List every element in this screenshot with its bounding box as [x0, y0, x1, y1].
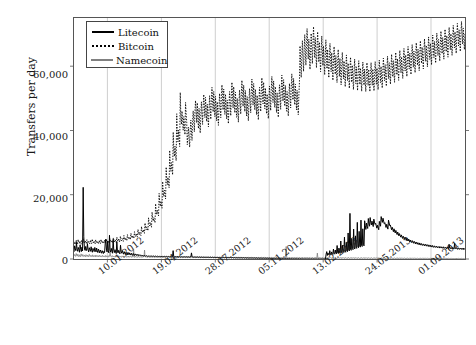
legend-label-litecoin: Litecoin: [115, 27, 159, 38]
x-tick-2: 19.04.2012: [150, 235, 200, 277]
legend-item-litecoin: Litecoin: [91, 25, 163, 39]
x-axis-ticks: 10.01.2012 19.04.2012 28.07.2012 05.11.2…: [0, 0, 476, 345]
chart-figure: Transfers per day 60,000 40,000 20,000 0…: [0, 0, 476, 345]
x-tick-5: 13.02.2013: [310, 235, 360, 277]
x-tick-3: 28.07.2012: [203, 235, 253, 277]
x-tick-7: 01.09.2013: [416, 235, 466, 277]
legend-item-bitcoin: Bitcoin: [91, 39, 163, 53]
legend-swatch-litecoin-icon: [91, 31, 115, 33]
legend-swatch-bitcoin-icon: [91, 45, 115, 48]
legend-label-namecoin: Namecoin: [113, 55, 167, 66]
chart-legend: Litecoin Bitcoin Namecoin: [86, 21, 168, 68]
x-tick-1: 10.01.2012: [96, 235, 146, 277]
x-tick-4: 05.11.2012: [256, 235, 306, 277]
legend-item-namecoin: Namecoin: [91, 53, 163, 67]
legend-swatch-namecoin-icon: [91, 59, 113, 61]
x-tick-6: 24.05.2013: [363, 235, 413, 277]
legend-label-bitcoin: Bitcoin: [115, 41, 154, 52]
